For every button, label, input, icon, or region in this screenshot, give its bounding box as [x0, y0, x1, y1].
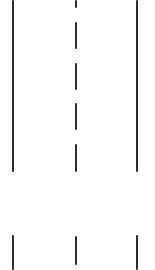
- center-dash-segment: [75, 22, 77, 49]
- right-edge-segment: [136, 235, 138, 270]
- center-dash-segment: [75, 103, 77, 130]
- center-dash-segment: [75, 144, 77, 172]
- center-dash-segment: [75, 0, 77, 8]
- left-edge-segment: [12, 235, 14, 270]
- right-edge-segment: [136, 0, 138, 172]
- center-dash-segment: [75, 236, 77, 265]
- left-edge-segment: [12, 0, 14, 172]
- center-dash-segment: [75, 63, 77, 90]
- road-diagram: [0, 0, 155, 270]
